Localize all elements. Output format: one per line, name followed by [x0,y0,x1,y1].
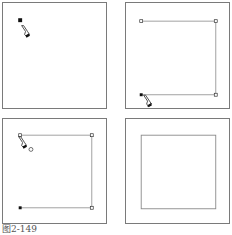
pen-tool-icon [144,95,152,107]
anchor-point [214,93,217,96]
anchor-point [140,20,143,23]
panel-step-3 [2,118,107,224]
figure-caption: 图2-149 [2,224,37,235]
pen-tool-icon [22,26,30,38]
open-path [20,135,92,208]
canvas-step-2 [126,3,229,108]
anchor-point-selected [18,18,22,22]
canvas-step-1 [3,3,106,108]
anchor-point-selected [19,206,22,209]
close-path-indicator-icon [29,147,33,151]
anchor-point [90,134,93,137]
panel-step-2 [125,2,230,109]
canvas-step-3 [3,119,106,223]
panel-step-1 [2,2,107,109]
anchor-point [214,20,217,23]
panel-step-4 [125,118,230,224]
closed-path-rectangle [141,135,216,209]
open-path [141,21,216,95]
anchor-point [90,206,93,209]
pen-tool-icon [19,137,27,149]
canvas-step-4 [126,119,229,223]
anchor-point-selected [140,93,143,96]
anchor-point-start [19,134,22,137]
